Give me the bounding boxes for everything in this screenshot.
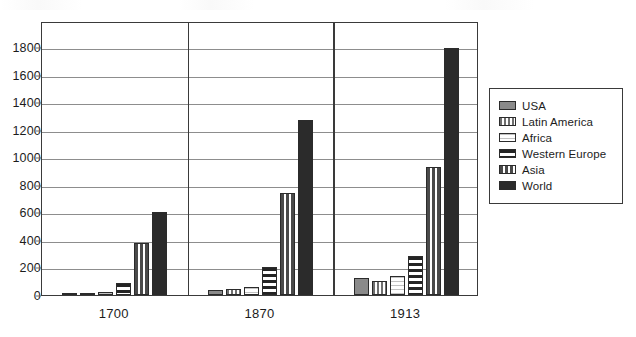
legend-swatch-icon xyxy=(499,181,516,190)
bar-usa-1870 xyxy=(208,290,223,296)
legend-label: World xyxy=(522,180,552,192)
legend-item-latin-america[interactable]: Latin America xyxy=(499,114,614,129)
legend-label: Western Europe xyxy=(522,148,606,160)
legend-item-western-europe[interactable]: Western Europe xyxy=(499,146,614,161)
bar-asia-1870 xyxy=(280,193,295,295)
bar-world-1870 xyxy=(298,120,313,295)
y-axis: 020040060080010001200140016001800 xyxy=(0,22,41,296)
x-tick-label-1913: 1913 xyxy=(332,306,478,321)
bar-western-europe-1700 xyxy=(116,283,131,295)
bar-world-1700 xyxy=(152,212,167,295)
bar-group-1913 xyxy=(333,23,479,295)
legend-item-asia[interactable]: Asia xyxy=(499,162,614,177)
legend-swatch-icon xyxy=(499,101,516,110)
plot-area xyxy=(41,22,478,296)
legend-swatch-icon xyxy=(499,165,516,174)
legend-swatch-icon xyxy=(499,149,516,158)
legend-item-africa[interactable]: Africa xyxy=(499,130,614,145)
legend: USALatin AmericaAfricaWestern EuropeAsia… xyxy=(489,88,623,204)
legend-label: USA xyxy=(522,100,546,112)
legend-label: Asia xyxy=(522,164,545,176)
bar-latin-america-1700 xyxy=(80,293,95,295)
legend-label: Latin America xyxy=(522,116,593,128)
legend-item-usa[interactable]: USA xyxy=(499,98,614,113)
bar-group-1700 xyxy=(42,23,188,295)
bar-western-europe-1913 xyxy=(408,256,423,295)
bar-latin-america-1870 xyxy=(226,289,241,295)
bar-usa-1913 xyxy=(354,278,369,295)
legend-swatch-icon xyxy=(499,133,516,142)
bar-latin-america-1913 xyxy=(372,281,387,295)
legend-swatch-icon xyxy=(499,117,516,126)
bar-usa-1700 xyxy=(62,293,77,295)
legend-item-world[interactable]: World xyxy=(499,178,614,193)
bar-africa-1870 xyxy=(244,287,259,295)
bar-asia-1913 xyxy=(426,167,441,295)
x-tick-label-1700: 1700 xyxy=(41,306,187,321)
bar-world-1913 xyxy=(444,48,459,295)
legend-label: Africa xyxy=(522,132,552,144)
bar-africa-1913 xyxy=(390,276,405,295)
x-tick-label-1870: 1870 xyxy=(187,306,333,321)
bar-western-europe-1870 xyxy=(262,267,277,295)
scan-artifact xyxy=(0,0,636,10)
bar-africa-1700 xyxy=(98,292,113,295)
bar-chart: 020040060080010001200140016001800 170018… xyxy=(0,0,636,337)
bar-asia-1700 xyxy=(134,243,149,295)
bar-group-1870 xyxy=(188,23,334,295)
